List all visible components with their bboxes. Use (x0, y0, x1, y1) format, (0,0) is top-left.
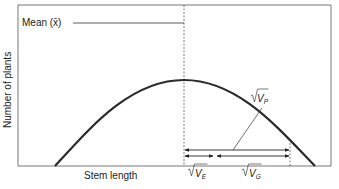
variance-diagram: Mean (x̄) VP VE VG Stem length Number of… (0, 0, 339, 189)
svg-text:VG: VG (249, 168, 261, 180)
mean-label: Mean (x̄) (22, 17, 61, 28)
vp-pointer (233, 108, 262, 150)
distribution-curve (55, 80, 315, 166)
y-axis-label: Number of plants (2, 52, 13, 128)
svg-text:VE: VE (195, 168, 207, 180)
svg-text:VP: VP (257, 93, 269, 105)
vp-label: VP (251, 89, 269, 105)
x-axis-label: Stem length (84, 170, 137, 181)
plot-frame (18, 5, 331, 166)
